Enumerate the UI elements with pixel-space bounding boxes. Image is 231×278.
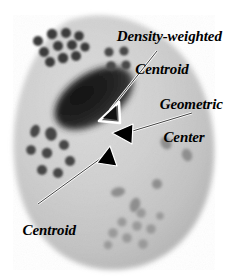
label-density-weighted-centroid-line1: Density-weighted [117,28,222,44]
label-geometric-center-line1: Geometric [160,96,223,112]
label-geometric-center-line2: Center [140,129,228,145]
label-centroid: Centroid [8,206,76,255]
cell-centroid-figure: Density-weighted Centroid Geometric Cent… [0,0,231,278]
label-density-weighted-centroid-line2: Centroid [96,61,228,77]
label-geometric-center: Geometric Center [140,80,228,177]
label-centroid-line1: Centroid [23,222,76,238]
